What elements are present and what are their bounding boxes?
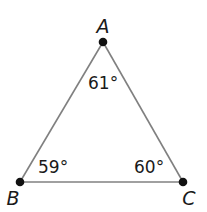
vertex-c-label: C [182, 187, 196, 209]
vertex-b-point [16, 178, 25, 187]
angle-a-measure: 61° [88, 73, 118, 93]
vertex-a-point [99, 38, 108, 47]
vertex-b-label: B [6, 187, 19, 209]
vertex-a-label: A [95, 15, 110, 37]
vertex-c-point [179, 178, 188, 187]
triangle-diagram: A B C 61° 59° 60° [0, 0, 207, 212]
angle-c-measure: 60° [134, 157, 164, 177]
angle-b-measure: 59° [38, 157, 68, 177]
